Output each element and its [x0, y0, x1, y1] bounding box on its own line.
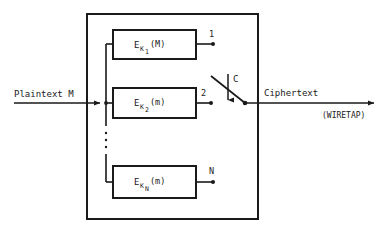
wiretap-label: (WIRETAP): [322, 111, 365, 120]
encryptor-2-output-label: 2: [201, 88, 206, 98]
encryptor-n-output-label: N: [209, 166, 214, 176]
vertical-ellipsis-icon: [105, 132, 107, 148]
switch-control-label: C: [233, 74, 238, 84]
switch-contact-1[interactable]: [211, 42, 215, 46]
encryptor-n-symbol: E: [134, 177, 139, 187]
cipher-block-diagram: E K 1 (M) 1 E K 2 (m) 2 E K N (m) N C: [0, 0, 385, 237]
encryptor-n-index: N: [145, 185, 149, 193]
encryptor-1-argument: (M): [150, 39, 165, 49]
encryptor-1-index: 1: [145, 48, 149, 56]
plaintext-label: Plaintext M: [14, 89, 74, 99]
encryptor-n-key: K: [140, 182, 144, 190]
encryptor-1-key: K: [140, 45, 144, 53]
encryptor-1-symbol: E: [134, 40, 139, 50]
encryptor-n-argument: (m): [150, 176, 165, 186]
encryptor-2-argument: (m): [150, 97, 165, 107]
encryptor-2-index: 2: [145, 106, 149, 114]
ciphertext-label: Ciphertext: [264, 88, 318, 98]
diagram-canvas: E K 1 (M) 1 E K 2 (m) 2 E K N (m) N C: [0, 0, 385, 237]
switch-contact-n[interactable]: [211, 180, 215, 184]
switch-contact-2[interactable]: [209, 101, 213, 105]
encryptor-2-symbol: E: [134, 98, 139, 108]
encryptor-2-key: K: [140, 103, 144, 111]
encryptor-1-output-label: 1: [209, 29, 214, 39]
